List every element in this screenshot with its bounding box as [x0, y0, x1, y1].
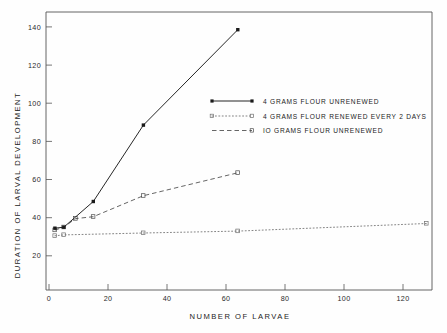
series-markers	[53, 222, 428, 238]
y-tick-label: 80	[32, 137, 41, 146]
series-10g-flour-unrenewed	[53, 171, 240, 232]
chart-legend: 4 GRAMS FLOUR UNRENEWED 4 GRAMS FLOUR RE…	[210, 98, 426, 135]
y-tick-label: 40	[32, 213, 41, 222]
x-tick-label: 100	[337, 294, 350, 303]
legend-entry-4g-unrenewed[interactable]: 4 GRAMS FLOUR UNRENEWED	[210, 98, 379, 105]
y-axis-ticks	[46, 27, 52, 256]
x-tick-label: 20	[104, 294, 113, 303]
legend-entry-10g-unrenewed[interactable]: IO GRAMS FLOUR UNRENEWED	[212, 127, 383, 134]
legend-marker-right	[250, 99, 253, 102]
series-markers	[53, 171, 240, 232]
y-tick-label: 140	[28, 23, 41, 32]
x-axis-tick-labels: 0 20 40 60 80 100 120	[47, 294, 410, 303]
y-tick-label: 120	[28, 61, 41, 70]
y-tick-label: 60	[32, 175, 41, 184]
chart-plot-area: 140 120 100 80 60 40 20 0 20 40 60 80 10…	[0, 0, 447, 333]
x-tick-label: 40	[163, 294, 172, 303]
y-axis-title: DURATION OF LARVAL DEVELOPMENT	[13, 92, 22, 279]
x-tick-label: 80	[281, 294, 290, 303]
legend-label: 4 GRAMS FLOUR RENEWED EVERY 2 DAYS	[263, 113, 427, 120]
legend-entry-4g-renewed[interactable]: 4 GRAMS FLOUR RENEWED EVERY 2 DAYS	[210, 113, 426, 120]
x-axis-ticks	[49, 284, 403, 290]
series-4g-flour-unrenewed	[53, 28, 239, 230]
y-axis-tick-labels: 140 120 100 80 60 40 20	[28, 23, 41, 261]
x-tick-label: 0	[47, 294, 51, 303]
chart-figure: 140 120 100 80 60 40 20 0 20 40 60 80 10…	[0, 0, 447, 333]
y-tick-label: 100	[28, 99, 41, 108]
legend-marker-left	[210, 99, 213, 102]
series-markers	[53, 28, 239, 230]
plot-frame	[46, 12, 432, 290]
x-tick-label: 120	[396, 294, 409, 303]
series-4g-flour-renewed	[53, 222, 428, 238]
legend-label: 4 GRAMS FLOUR UNRENEWED	[263, 98, 379, 105]
x-axis-title: NUMBER OF LARVAE	[190, 312, 291, 321]
y-tick-label: 20	[32, 251, 41, 260]
legend-label: IO GRAMS FLOUR UNRENEWED	[263, 127, 383, 134]
x-tick-label: 60	[222, 294, 231, 303]
